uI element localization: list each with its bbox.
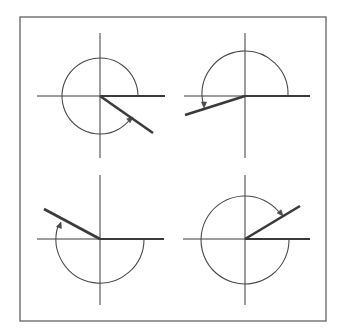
terminal-side-ray — [245, 206, 300, 239]
panel-bottom-left — [37, 175, 164, 305]
angle-diagram — [0, 0, 343, 336]
panel-bottom-right — [183, 175, 310, 305]
panel-top-left — [37, 33, 165, 158]
terminal-side-ray — [100, 96, 153, 133]
diagram-frame — [20, 17, 326, 321]
panel-top-right — [184, 33, 310, 158]
terminal-side-ray — [185, 96, 245, 115]
terminal-side-ray — [44, 209, 100, 239]
